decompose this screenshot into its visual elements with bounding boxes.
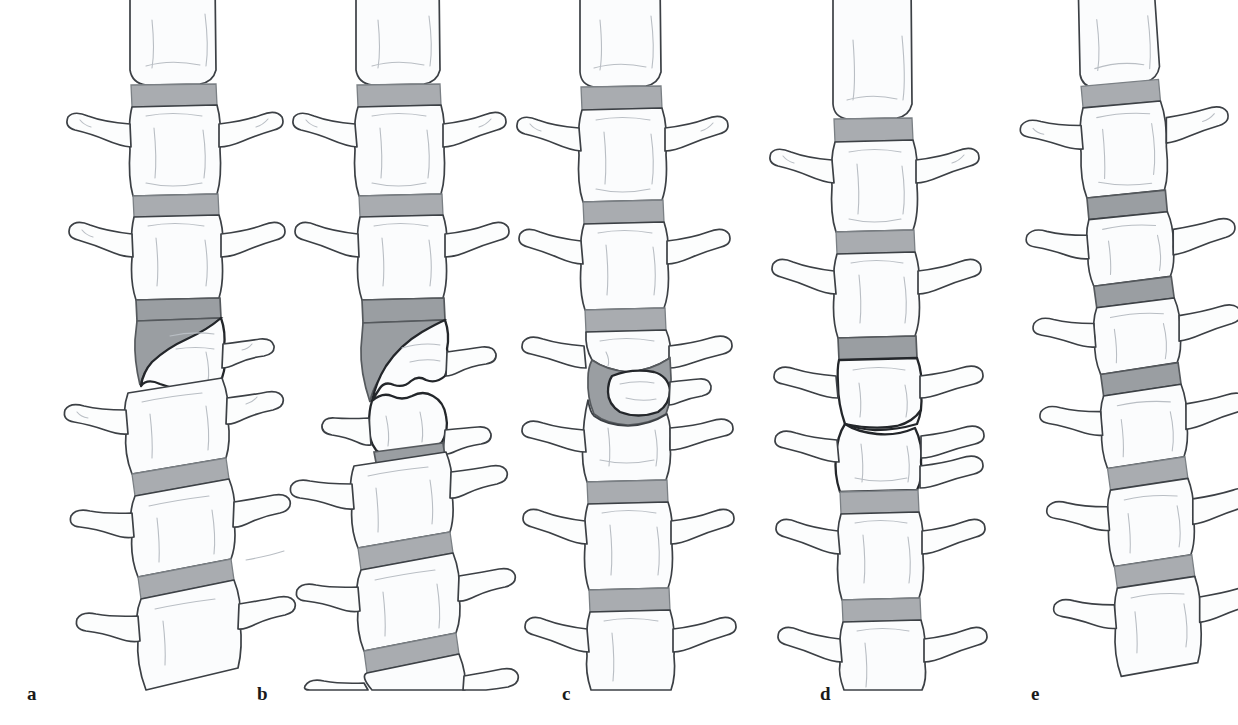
intervertebral-disc-wedged	[136, 298, 221, 321]
transverse-process-right	[1186, 393, 1238, 429]
intervertebral-disc	[589, 588, 670, 612]
intervertebral-disc	[583, 200, 664, 224]
transverse-process-right	[916, 148, 979, 183]
transverse-process-left	[64, 405, 128, 435]
transverse-process-left	[1047, 502, 1110, 531]
transverse-process-right	[443, 427, 491, 454]
transverse-process-right	[924, 627, 987, 662]
panel-label-e: e	[1031, 684, 1039, 704]
apposed-vertebra-upper	[838, 358, 922, 430]
transverse-process-right	[1173, 219, 1235, 255]
transverse-process-left	[293, 113, 357, 147]
intervertebral-disc-wedged	[362, 298, 445, 323]
panel-a-wedge-deformity	[0, 0, 248, 690]
vertebra-body	[837, 512, 923, 600]
panel-d-drawing	[745, 0, 993, 690]
transverse-process-right	[446, 347, 496, 376]
transverse-process-right	[918, 259, 981, 294]
transverse-process-left	[517, 117, 581, 151]
vertebra-body	[831, 140, 917, 232]
intervertebral-disc	[840, 490, 919, 514]
transverse-process-left	[525, 617, 589, 652]
transverse-process-left	[775, 431, 839, 462]
transverse-process-right	[1179, 305, 1238, 341]
transverse-process-right	[920, 456, 983, 488]
panel-label-c: c	[562, 684, 570, 704]
transverse-process-right	[673, 617, 736, 652]
transverse-process-left	[522, 337, 586, 368]
transverse-process-left	[770, 149, 834, 183]
panel-label-b: b	[257, 684, 268, 704]
wedged-vertebra-body	[1087, 212, 1174, 286]
codfish-vertebral-body	[608, 371, 670, 416]
transverse-process-left	[772, 259, 836, 294]
panel-c-biconcave-deformity	[490, 0, 738, 690]
transverse-process-left	[522, 421, 586, 452]
transverse-process-left	[69, 222, 133, 257]
transverse-process-left	[1054, 600, 1117, 629]
transverse-process-right	[1193, 488, 1238, 524]
transverse-process-left	[67, 113, 131, 147]
panel-e-drawing	[985, 0, 1233, 690]
transverse-process-right	[670, 419, 733, 450]
caption-row: a b c d e	[0, 684, 1238, 725]
transverse-process-right	[671, 509, 734, 544]
vertebra-body	[130, 0, 216, 85]
panel-b-crush-deformity	[230, 0, 478, 690]
vertebra-body	[833, 252, 919, 338]
spine-column-c	[517, 0, 736, 690]
intervertebral-disc	[838, 336, 917, 360]
intervertebral-disc	[836, 230, 915, 254]
vertebra-body	[137, 580, 242, 690]
intervertebral-disc	[131, 84, 217, 107]
panel-e-scoliotic-angulation	[985, 0, 1233, 690]
intervertebral-disc	[581, 86, 662, 110]
transverse-process-right	[922, 519, 985, 554]
wedged-vertebra-body-apex	[1094, 298, 1181, 374]
intervertebral-disc	[587, 480, 668, 504]
transverse-process-left	[774, 367, 838, 398]
vertebra-body	[131, 215, 223, 300]
panel-c-drawing	[490, 0, 738, 690]
transverse-process-left	[295, 222, 359, 257]
vertebra-body	[1101, 384, 1188, 468]
intervertebral-disc	[357, 84, 441, 107]
intervertebral-disc	[842, 598, 921, 622]
transverse-process-left	[296, 584, 360, 611]
vertebra-body	[839, 620, 925, 690]
transverse-process-left	[523, 509, 587, 544]
transverse-process-right	[665, 116, 728, 151]
transverse-process-right	[921, 426, 984, 458]
vertebra-body	[129, 105, 220, 196]
transverse-process-left	[1033, 318, 1096, 347]
vertebral-deformity-figure: a b c d e	[0, 0, 1238, 725]
vertebra-body	[1114, 576, 1201, 676]
intervertebral-disc	[359, 194, 443, 217]
intervertebral-disc	[585, 308, 666, 332]
vertebra-body	[357, 215, 447, 300]
transverse-process-right	[1166, 107, 1228, 143]
transverse-process-left	[290, 480, 354, 509]
transverse-process-right	[667, 229, 730, 264]
transverse-process-right	[669, 379, 711, 405]
vertebra-body	[356, 0, 440, 85]
transverse-process-left	[70, 510, 134, 537]
panel-d-disc-space-loss	[745, 0, 993, 690]
vertebra-body	[1078, 0, 1159, 88]
transverse-process-right	[669, 336, 732, 368]
panel-label-d: d	[820, 684, 831, 704]
spine-column-e	[1020, 0, 1238, 676]
vertebra-body	[586, 610, 674, 690]
intervertebral-disc	[133, 194, 219, 217]
transverse-process-left	[1026, 230, 1089, 259]
transverse-process-left	[778, 627, 842, 662]
transverse-process-right	[1200, 586, 1238, 622]
spine-column-d	[770, 0, 987, 690]
transverse-process-left	[519, 229, 583, 264]
vertebra-body	[1107, 478, 1194, 566]
transverse-process-left	[322, 418, 371, 445]
transverse-process-left	[1020, 120, 1083, 149]
transverse-process-left	[776, 519, 840, 554]
transverse-process-left	[1040, 406, 1103, 435]
vertebra-body	[833, 0, 912, 119]
